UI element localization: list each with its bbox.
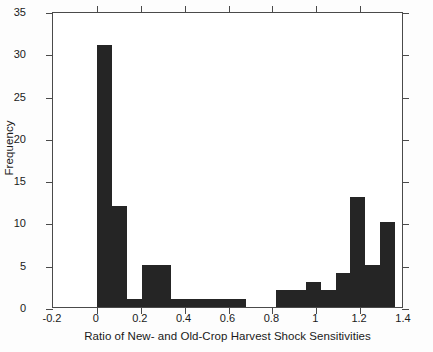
x-axis-tick xyxy=(229,307,230,314)
histogram-bar xyxy=(201,299,216,307)
histogram-bar xyxy=(142,265,157,307)
histogram-bar xyxy=(365,265,380,307)
histogram-bars xyxy=(53,13,402,307)
y-axis-tick xyxy=(402,309,409,310)
y-axis-tick xyxy=(402,13,409,14)
y-tick-label: 15 xyxy=(0,176,26,187)
y-axis-tick xyxy=(402,98,409,99)
y-tick-label: 25 xyxy=(0,92,26,103)
histogram-bar xyxy=(186,299,201,307)
y-axis-title-text: Frequency xyxy=(3,120,15,175)
histogram-bar xyxy=(380,222,395,307)
x-tick-label: 0.6 xyxy=(206,313,250,324)
x-axis-tick xyxy=(97,6,98,13)
x-tick-label: 0 xyxy=(74,313,118,324)
histogram-bar xyxy=(171,299,186,307)
x-tick-label: -0.2 xyxy=(30,313,74,324)
histogram-bar xyxy=(231,299,246,307)
histogram-bar xyxy=(127,299,142,307)
histogram-bar xyxy=(112,206,127,307)
x-axis-tick xyxy=(185,6,186,13)
y-tick-label: 5 xyxy=(0,261,26,272)
x-axis-tick xyxy=(316,6,317,13)
y-axis-tick xyxy=(402,140,409,141)
y-tick-label: 20 xyxy=(0,134,26,145)
x-tick-label: 1 xyxy=(293,313,337,324)
histogram-bar xyxy=(97,45,112,307)
y-tick-label: 30 xyxy=(0,49,26,60)
y-axis-tick xyxy=(46,182,53,183)
x-axis-tick xyxy=(316,307,317,314)
histogram-bar xyxy=(157,265,172,307)
histogram-bar xyxy=(306,282,321,307)
x-tick-label: 0.2 xyxy=(118,313,162,324)
x-axis-tick xyxy=(272,6,273,13)
y-axis-tick xyxy=(46,309,53,310)
y-axis-tick xyxy=(402,182,409,183)
y-axis-tick xyxy=(46,140,53,141)
histogram-bar xyxy=(291,290,306,307)
histogram-figure: Frequency 0 5 10 15 20 25 30 35 -0.2 0 0… xyxy=(0,0,433,352)
y-axis-tick xyxy=(402,55,409,56)
histogram-bar xyxy=(276,290,291,307)
x-axis-tick xyxy=(360,307,361,314)
histogram-bar xyxy=(336,273,351,307)
histogram-bar xyxy=(350,197,365,307)
x-tick-label: 1.4 xyxy=(381,313,425,324)
x-axis-tick xyxy=(141,307,142,314)
x-axis-tick xyxy=(272,307,273,314)
x-axis-title: Ratio of New- and Old-Crop Harvest Shock… xyxy=(52,330,403,342)
y-axis-tick xyxy=(46,267,53,268)
plot-area xyxy=(52,12,403,308)
x-axis-tick xyxy=(185,307,186,314)
y-tick-label: 0 xyxy=(0,303,26,314)
histogram-bar xyxy=(321,290,336,307)
x-axis-tick xyxy=(141,6,142,13)
y-axis-tick xyxy=(46,98,53,99)
x-axis-tick xyxy=(229,6,230,13)
y-axis-tick xyxy=(402,224,409,225)
x-tick-label: 1.2 xyxy=(337,313,381,324)
x-axis-tick xyxy=(360,6,361,13)
x-axis-tick xyxy=(97,307,98,314)
x-tick-label: 0.8 xyxy=(249,313,293,324)
x-tick-label: 0.4 xyxy=(162,313,206,324)
y-axis-tick xyxy=(402,267,409,268)
y-tick-label: 35 xyxy=(0,7,26,18)
y-axis-title: Frequency xyxy=(2,0,16,296)
y-axis-tick xyxy=(46,55,53,56)
y-axis-tick xyxy=(46,13,53,14)
histogram-bar xyxy=(216,299,231,307)
y-axis-tick xyxy=(46,224,53,225)
y-tick-label: 10 xyxy=(0,218,26,229)
